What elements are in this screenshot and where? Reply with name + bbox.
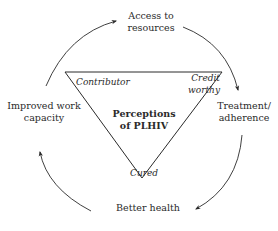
node-access-to-resources: Access to resources (118, 10, 184, 34)
center-line2: of PLHIV (108, 120, 180, 132)
corner-credit-line1: Credit (186, 72, 220, 84)
arrow-treatment-to-health (196, 135, 242, 209)
node-access-line2: resources (118, 22, 184, 34)
node-treatment-adherence: Treatment/ adherence (214, 100, 274, 124)
corner-contributor: Contributor (76, 76, 130, 88)
node-access-line1: Access to (118, 10, 184, 22)
node-treatment-line2: adherence (214, 112, 274, 124)
node-improved-work-capacity: Improved work capacity (6, 100, 82, 124)
node-work-line2: capacity (6, 112, 82, 124)
center-line1: Perceptions (108, 108, 180, 120)
node-better-health: Better health (108, 202, 188, 214)
corner-credit-worthy: Credit worthy (186, 72, 220, 96)
arrow-health-to-work (40, 152, 91, 211)
node-treatment-line1: Treatment/ (214, 100, 274, 112)
node-work-line1: Improved work (6, 100, 82, 112)
node-health-label: Better health (108, 202, 188, 214)
corner-cured: Cured (130, 167, 156, 179)
corner-credit-line2: worthy (186, 84, 220, 96)
center-perceptions-label: Perceptions of PLHIV (108, 108, 180, 132)
